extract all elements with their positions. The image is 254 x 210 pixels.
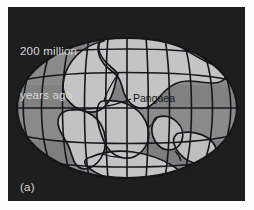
figure-root: Pangaea 200 million years ago (a) xyxy=(0,0,254,210)
pangaea-label: Pangaea xyxy=(133,92,175,104)
pangaea-map: Pangaea xyxy=(8,7,245,201)
figure-panel: Pangaea 200 million years ago (a) xyxy=(8,7,245,201)
